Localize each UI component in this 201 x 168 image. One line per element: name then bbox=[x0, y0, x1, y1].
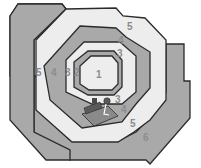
label-4-top: 4 bbox=[118, 35, 124, 46]
label-2: 2 bbox=[74, 67, 80, 78]
label-5-bottom: 5 bbox=[130, 118, 136, 129]
label-3-top: 3 bbox=[117, 48, 123, 59]
label-4-bottom: 4 bbox=[121, 104, 127, 115]
label-5-left: 5 bbox=[36, 67, 42, 78]
label-6: 6 bbox=[143, 132, 149, 143]
concentric-zone-diagram: 1 2 3 3 3 4 4 4 5 5 5 6 bbox=[0, 0, 201, 168]
label-1: 1 bbox=[96, 69, 102, 80]
label-3-left: 3 bbox=[65, 67, 71, 78]
label-5-top: 5 bbox=[127, 21, 133, 32]
label-4-left: 4 bbox=[51, 67, 57, 78]
